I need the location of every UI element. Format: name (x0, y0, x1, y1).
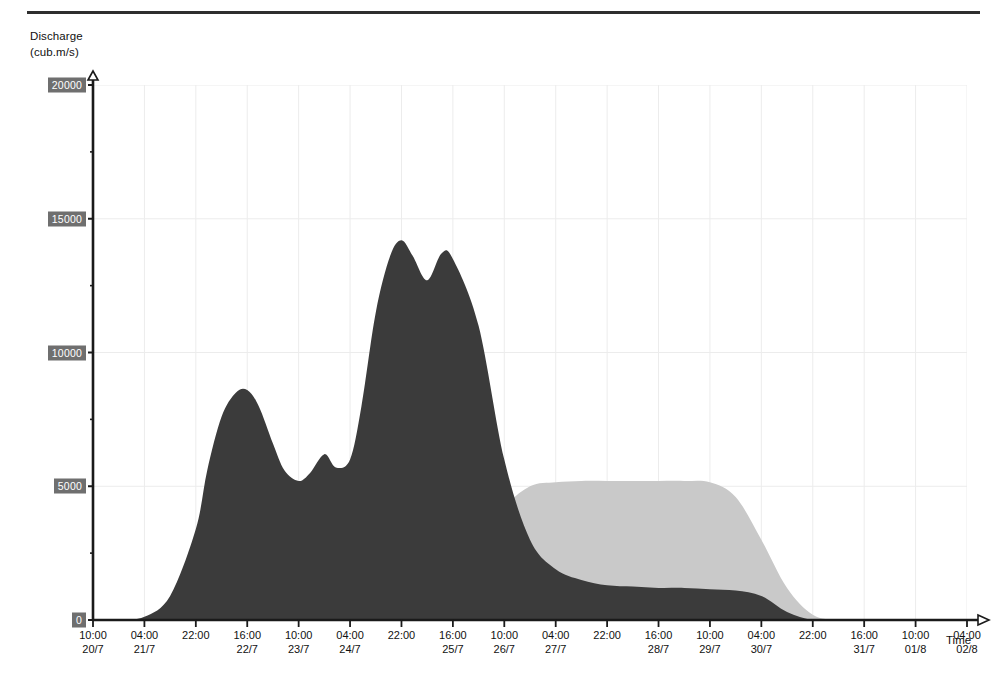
x-tick-time: 04:00 (336, 629, 364, 641)
x-tick-time: 10:00 (79, 629, 107, 641)
x-tick-time: 04:00 (953, 629, 981, 641)
x-axis-arrowhead (978, 615, 989, 625)
x-tick-label: 16:0028/7 (645, 628, 673, 656)
x-tick-time: 16:00 (645, 629, 673, 641)
x-axis-tick-labels: 10:0020/704:0021/722:0016:0022/710:0023/… (0, 628, 1001, 678)
x-tick-time: 22:00 (799, 629, 827, 641)
y-axis-arrowhead (88, 71, 98, 80)
area-series-dark (93, 240, 967, 620)
x-tick-label: 04:0021/7 (131, 628, 159, 656)
y-tick-label: 15000 (48, 211, 86, 226)
x-tick-date: 25/7 (439, 642, 467, 656)
plot-area (93, 85, 967, 620)
x-tick-date: 28/7 (645, 642, 673, 656)
x-tick-label: 10:0001/8 (902, 628, 930, 656)
y-tick-label: 20000 (48, 78, 86, 93)
x-tick-date: 21/7 (131, 642, 159, 656)
x-tick-time: 16:00 (233, 629, 261, 641)
x-tick-label: 10:0029/7 (696, 628, 724, 656)
x-tick-date: 01/8 (902, 642, 930, 656)
x-tick-date: 31/7 (850, 642, 878, 656)
x-tick-date: 30/7 (748, 642, 776, 656)
series-layer (93, 240, 967, 620)
x-tick-time: 22:00 (182, 629, 210, 641)
x-tick-label: 10:0023/7 (285, 628, 313, 656)
x-tick-label: 16:0025/7 (439, 628, 467, 656)
header-rule (27, 11, 980, 14)
x-tick-date: 23/7 (285, 642, 313, 656)
x-tick-date: 27/7 (542, 642, 570, 656)
x-tick-label: 04:0002/8 (953, 628, 981, 656)
area-chart-svg (93, 85, 967, 620)
y-tick-label: 10000 (48, 345, 86, 360)
x-tick-date: 20/7 (79, 642, 107, 656)
discharge-hydrograph-figure: Discharge (cub.m/s) Time 050001000015000… (0, 0, 1001, 693)
x-tick-date: 29/7 (696, 642, 724, 656)
x-tick-label: 04:0024/7 (336, 628, 364, 656)
x-tick-time: 22:00 (593, 629, 621, 641)
x-tick-label: 22:00 (799, 628, 827, 642)
x-tick-time: 10:00 (285, 629, 313, 641)
x-tick-time: 10:00 (696, 629, 724, 641)
x-tick-time: 22:00 (388, 629, 416, 641)
y-tick-label: 0 (72, 613, 86, 628)
x-tick-label: 04:0027/7 (542, 628, 570, 656)
x-tick-label: 16:0022/7 (233, 628, 261, 656)
x-tick-time: 04:00 (131, 629, 159, 641)
x-tick-time: 10:00 (902, 629, 930, 641)
x-tick-time: 16:00 (439, 629, 467, 641)
x-tick-time: 10:00 (491, 629, 519, 641)
y-tick-label: 5000 (54, 479, 86, 494)
x-tick-label: 22:00 (182, 628, 210, 642)
x-tick-label: 10:0026/7 (491, 628, 519, 656)
y-axis-tick-labels: 05000100001500020000 (0, 0, 86, 693)
x-tick-time: 16:00 (850, 629, 878, 641)
x-tick-date: 24/7 (336, 642, 364, 656)
x-tick-date: 02/8 (953, 642, 981, 656)
x-tick-label: 04:0030/7 (748, 628, 776, 656)
x-tick-date: 26/7 (491, 642, 519, 656)
x-tick-date: 22/7 (233, 642, 261, 656)
x-tick-label: 22:00 (593, 628, 621, 642)
x-tick-label: 22:00 (388, 628, 416, 642)
x-tick-time: 04:00 (748, 629, 776, 641)
x-tick-time: 04:00 (542, 629, 570, 641)
x-tick-label: 10:0020/7 (79, 628, 107, 656)
x-tick-label: 16:0031/7 (850, 628, 878, 656)
